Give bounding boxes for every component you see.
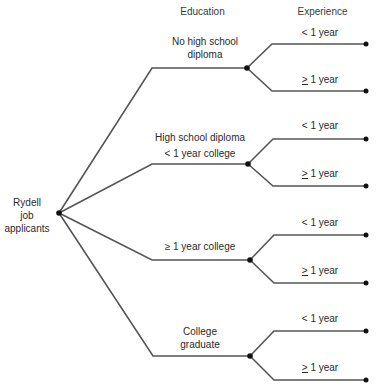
label-line: High school diploma xyxy=(140,130,260,146)
root-label-line: job xyxy=(0,209,54,222)
experience-label-less: < 1 year xyxy=(290,312,350,325)
decision-tree-diagram: Education Experience Rydell job applican… xyxy=(0,0,379,386)
leaf-node xyxy=(364,42,369,47)
experience-label-less: < 1 year xyxy=(290,26,350,39)
leaf-node xyxy=(364,378,369,383)
label-line: No high school xyxy=(155,35,255,48)
education-node xyxy=(247,257,253,263)
root-label: Rydell job applicants xyxy=(0,196,54,235)
leaf-node xyxy=(364,281,369,286)
label-text: 1 year xyxy=(308,168,339,179)
leaf-node xyxy=(364,137,369,142)
education-header: Education xyxy=(170,5,235,18)
leaf-node xyxy=(364,233,369,238)
experience-label-more: > 1 year xyxy=(290,361,350,374)
experience-label-more: > 1 year xyxy=(290,73,350,86)
label-line: ≥ 1 year college xyxy=(165,241,236,252)
leaf-node xyxy=(364,329,369,334)
label-text: 1 year xyxy=(308,362,339,373)
label-line: College xyxy=(165,325,235,338)
leaf-node xyxy=(364,89,369,94)
root-node xyxy=(56,210,62,216)
education-label-hs-diploma: High school diploma < 1 year college xyxy=(140,130,260,162)
label-line: diploma xyxy=(155,48,255,61)
education-node xyxy=(245,161,251,167)
experience-header: Experience xyxy=(290,5,355,18)
education-node xyxy=(244,65,250,71)
experience-label-more: > 1 year xyxy=(290,167,350,180)
root-label-line: Rydell xyxy=(0,196,54,209)
label-line: < 1 year college xyxy=(140,146,260,162)
label-text: 1 year xyxy=(308,74,339,85)
education-label-some-college: ≥ 1 year college xyxy=(150,240,250,253)
education-label-no-diploma: No high school diploma xyxy=(155,35,255,61)
experience-label-more: > 1 year xyxy=(290,264,350,277)
root-label-line: applicants xyxy=(0,222,54,235)
label-text: 1 year xyxy=(308,265,339,276)
education-label-college-graduate: College graduate xyxy=(165,325,235,351)
experience-label-less: < 1 year xyxy=(290,216,350,229)
label-line: graduate xyxy=(165,338,235,351)
experience-label-less: < 1 year xyxy=(290,119,350,132)
leaf-node xyxy=(364,184,369,189)
education-node xyxy=(247,353,253,359)
